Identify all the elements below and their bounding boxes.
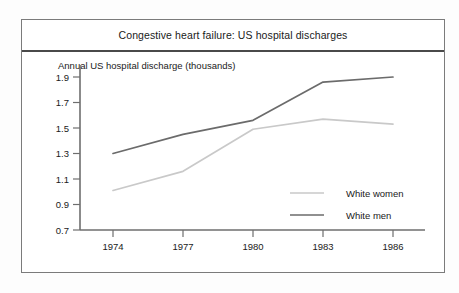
legend-label-white-men: White men (346, 210, 391, 221)
series-line-white-women (113, 119, 393, 190)
x-tick-label: 1983 (312, 241, 333, 252)
chart-title: Congestive heart failure: US hospital di… (119, 29, 348, 41)
y-tick-label: 1.1 (56, 174, 69, 185)
series-line-white-men (113, 77, 393, 154)
line-chart-svg: 0.70.91.11.31.51.71.91974197719801983198… (22, 52, 444, 273)
y-tick-label: 1.7 (56, 97, 69, 108)
legend-label-white-women: White women (346, 188, 404, 199)
chart-frame: Congestive heart failure: US hospital di… (21, 19, 445, 273)
chart-title-band: Congestive heart failure: US hospital di… (22, 20, 444, 52)
x-tick-label: 1977 (172, 241, 193, 252)
y-tick-label: 0.7 (56, 225, 69, 236)
x-tick-label: 1980 (242, 241, 263, 252)
y-tick-label: 0.9 (56, 199, 69, 210)
x-tick-label: 1986 (382, 241, 403, 252)
x-tick-label: 1974 (102, 241, 123, 252)
y-tick-label: 1.5 (56, 123, 69, 134)
y-tick-label: 1.3 (56, 148, 69, 159)
y-tick-label: 1.9 (56, 72, 69, 83)
figure-root: Congestive heart failure: US hospital di… (0, 0, 459, 293)
plot-area: Annual US hospital discharge (thousands)… (22, 52, 444, 273)
